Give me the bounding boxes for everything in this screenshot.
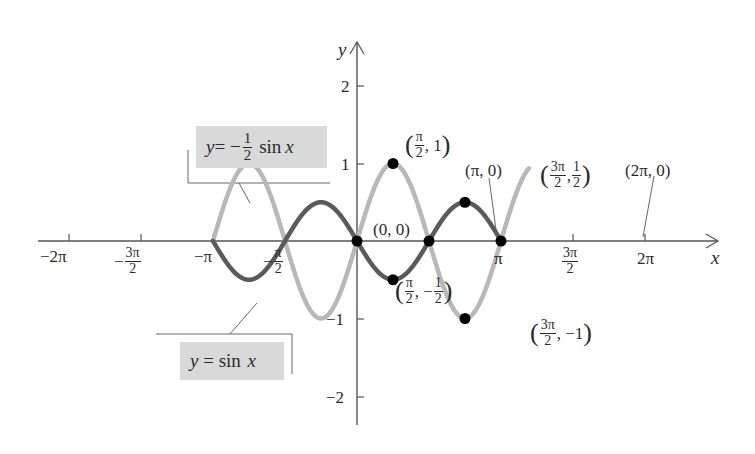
x-tick-label-neg-2pi: −2π (40, 248, 67, 265)
point-marker (423, 236, 434, 247)
point-label-3pi-half-neg1: (3π2, −1) (530, 318, 592, 348)
point-label-pi: (π, 0) (465, 162, 502, 179)
point-marker (460, 313, 471, 324)
x-tick-label-2pi: 2π (637, 250, 654, 267)
x-tick-label-neg-pi-2: −π2 (263, 246, 284, 276)
x-tick-label-neg-pi: −π (194, 248, 212, 265)
point-label-pi-half-neg-half: (π2, −12) (395, 276, 453, 306)
x-axis-label: x (711, 248, 719, 267)
y-tick-label-2: 2 (341, 78, 350, 95)
point-marker (388, 158, 399, 169)
legend-sin-x: y = sin x (180, 342, 284, 380)
point-label-pi-half-1: (π2, 1) (405, 130, 450, 160)
point-marker (460, 197, 471, 208)
x-tick-label-3pi-2: 3π2 (561, 246, 579, 276)
legend-neg-half-sin-x: y = −12sinx (196, 126, 327, 168)
y-tick-label-1: 1 (341, 156, 350, 173)
y-axis-label: y (338, 40, 346, 59)
point-label-2pi: (2π, 0) (625, 162, 670, 179)
y-tick-label-neg1: −1 (326, 311, 344, 328)
point-marker (496, 236, 507, 247)
y-tick-label-neg2: −2 (326, 389, 344, 406)
point-label-origin: (0, 0) (373, 221, 410, 238)
x-tick-label-neg-3pi-2: −3π2 (114, 246, 142, 276)
point-marker (352, 236, 363, 247)
x-tick-label-pi: π (494, 250, 503, 267)
point-label-3pi-half-half: (3π2,12) (540, 160, 591, 190)
